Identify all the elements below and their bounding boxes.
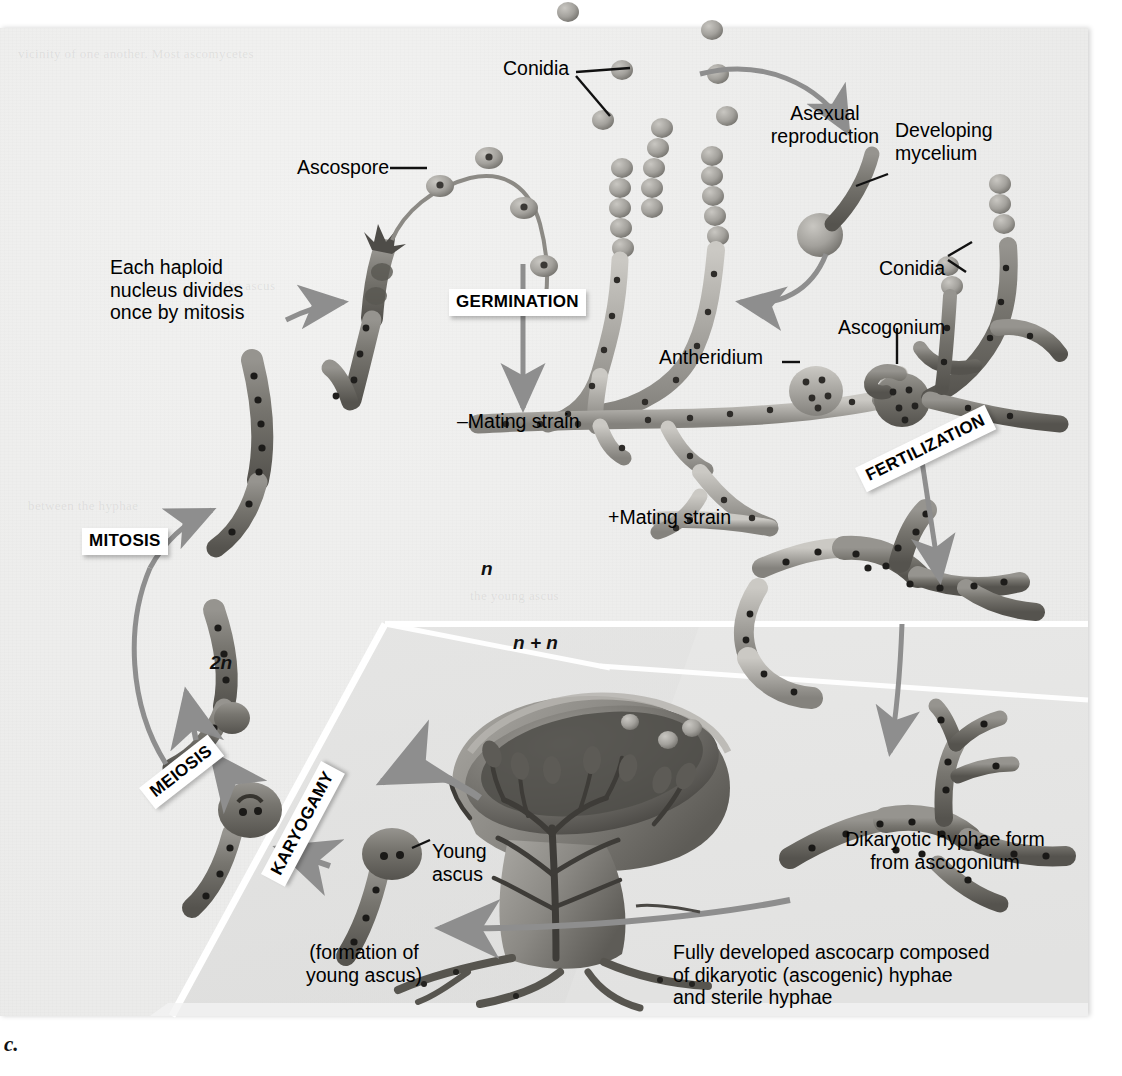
figure-plate: vicinity of one another. Most ascomycete… (0, 28, 1088, 1016)
leader-developing-mycelium (856, 174, 888, 186)
label-conidia-top: Conidia (503, 57, 569, 80)
label-developing-mycelium: Developing mycelium (895, 119, 993, 164)
leader-ascocarp (636, 905, 700, 912)
ploidy-label-haploid: n (481, 558, 493, 580)
figure-caption: c. (4, 1032, 19, 1057)
figure-page: vicinity of one another. Most ascomycete… (0, 0, 1122, 1076)
ploidy-label-dikaryotic: n + n (513, 632, 558, 654)
label-formation-young-ascus: (formation of young ascus) (266, 941, 462, 986)
stage-badge-mitosis[interactable]: MITOSIS (82, 528, 168, 555)
arrow-to-bursting-ascus (286, 302, 344, 320)
label-plus-mating-strain: +Mating strain (608, 506, 731, 529)
label-ascospore: Ascospore (297, 156, 389, 179)
label-young-ascus: Young ascus (432, 840, 487, 885)
label-minus-mating-strain: –Mating strain (457, 410, 579, 433)
leader-conidia-top-a (576, 68, 630, 72)
leader-conidia-right (948, 242, 972, 256)
label-conidia-right: Conidia (879, 257, 945, 280)
leader-conidia-right-b (948, 260, 966, 272)
arrow-fertilization (920, 448, 940, 580)
arrow-to-dikaryotic (890, 624, 902, 752)
leader-young-ascus (412, 840, 430, 848)
label-antheridium: Antheridium (659, 346, 763, 369)
ploidy-label-diploid: 2n (210, 652, 232, 674)
arrow-cup-to-young-ascus (382, 774, 480, 798)
label-haploid-nucleus-note: Each haploid nucleus divides once by mit… (110, 256, 244, 324)
arrow-meiosis-up (186, 692, 196, 740)
leader-conidia-top-b (576, 76, 610, 116)
label-asexual-reproduction: Asexual reproduction (735, 102, 915, 147)
label-dikaryotic-hyphae: Dikaryotic hyphae form from ascogonium (812, 828, 1078, 873)
label-ascocarp: Fully developed ascocarp composed of dik… (673, 941, 990, 1009)
arrow-ascocarp-to-ascus (440, 900, 790, 928)
label-ascogonium: Ascogonium (838, 316, 945, 339)
stage-badge-germination[interactable]: GERMINATION (449, 289, 586, 316)
arrow-asexual-out (740, 254, 826, 303)
arrow-mitosis-curve (134, 568, 166, 764)
